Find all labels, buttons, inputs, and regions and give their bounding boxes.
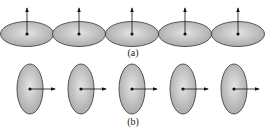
ellipse-b-3 [119, 64, 157, 114]
panel-b [17, 64, 259, 114]
panel-a-label: (a) [127, 47, 138, 59]
panel-b-label: (b) [127, 116, 139, 128]
ellipse-b-5 [221, 64, 259, 114]
center-dot [79, 87, 82, 90]
center-dot [130, 87, 133, 90]
ellipse-b-2 [68, 64, 106, 114]
ellipse-b-4 [170, 64, 208, 114]
center-dot [232, 87, 235, 90]
ellipse-b-1 [17, 64, 55, 114]
center-dot [25, 32, 28, 35]
center-dot [236, 32, 239, 35]
panel-a [1, 8, 265, 47]
ellipse-a-1 [1, 8, 54, 47]
center-dot [183, 32, 186, 35]
ellipse-a-3 [106, 8, 159, 47]
center-dot [181, 87, 184, 90]
figure: (a) (b) [0, 0, 266, 132]
ellipse-a-5 [212, 8, 265, 47]
center-dot [77, 32, 80, 35]
center-dot [130, 32, 133, 35]
ellipse-a-4 [159, 8, 212, 47]
center-dot [28, 87, 31, 90]
ellipse-a-2 [53, 8, 106, 47]
